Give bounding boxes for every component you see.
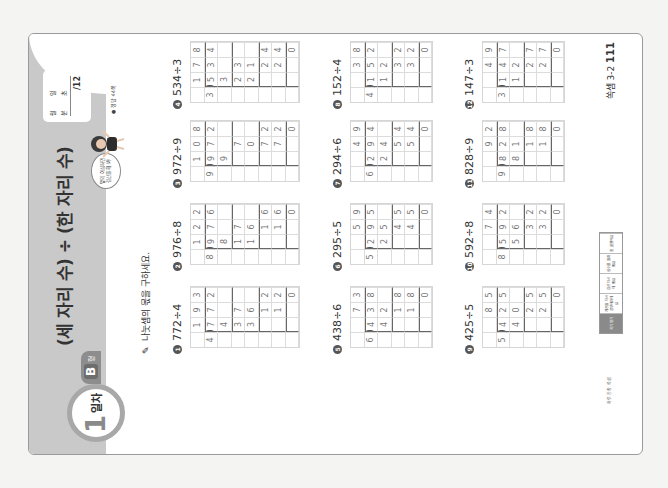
grid-cell[interactable] (245, 42, 259, 57)
grid-cell[interactable]: 1 (524, 136, 538, 151)
grid-cell[interactable]: 6 (365, 332, 379, 347)
grid-cell[interactable] (419, 249, 433, 264)
grid-cell[interactable]: 5 (351, 219, 365, 234)
grid-cell[interactable]: 1 (272, 219, 286, 234)
grid-cell[interactable] (259, 332, 273, 347)
grid-cell[interactable] (232, 249, 246, 264)
grid-cell[interactable]: 0 (419, 287, 433, 302)
grid-cell[interactable]: 0 (419, 204, 433, 219)
grid-cell[interactable]: 0 (551, 121, 565, 136)
grid-cell[interactable]: 2 (378, 151, 392, 166)
grid-cell[interactable] (286, 249, 300, 264)
grid-cell[interactable]: 8 (405, 287, 419, 302)
grid-cell[interactable]: 1 (378, 72, 392, 87)
grid-cell[interactable]: 2 (497, 302, 511, 317)
grid-cell[interactable] (537, 317, 551, 332)
grid-cell[interactable] (392, 234, 406, 249)
grid-cell[interactable]: 2 (378, 302, 392, 317)
grid-cell[interactable]: 1 (510, 72, 524, 87)
grid-cell[interactable]: 7 (351, 302, 365, 317)
grid-cell[interactable] (524, 249, 538, 264)
grid-cell[interactable]: 9 (205, 151, 219, 166)
grid-cell[interactable]: 9 (205, 166, 219, 181)
grid-cell[interactable] (524, 166, 538, 181)
grid-cell[interactable] (483, 332, 497, 347)
grid-cell[interactable] (218, 136, 232, 151)
grid-cell[interactable]: 2 (272, 57, 286, 72)
grid-cell[interactable]: 9 (483, 42, 497, 57)
grid-cell[interactable] (218, 302, 232, 317)
grid-cell[interactable]: 2 (232, 72, 246, 87)
grid-cell[interactable]: 9 (483, 136, 497, 151)
grid-cell[interactable]: 1 (272, 302, 286, 317)
grid-cell[interactable]: 5 (497, 332, 511, 347)
grid-cell[interactable]: 7 (497, 42, 511, 57)
evaluation-cell[interactable]: 계산을 다시 공부해야해요 (600, 293, 622, 313)
grid-cell[interactable] (218, 204, 232, 219)
grid-cell[interactable]: 3 (537, 219, 551, 234)
grid-cell[interactable] (405, 332, 419, 347)
grid-cell[interactable]: 3 (365, 302, 379, 317)
grid-cell[interactable] (218, 249, 232, 264)
grid-cell[interactable]: 0 (551, 42, 565, 57)
grid-cell[interactable]: 9 (218, 151, 232, 166)
grid-cell[interactable] (272, 317, 286, 332)
grid-cell[interactable] (232, 332, 246, 347)
evaluation-cell[interactable]: 실수를 줄여 봐요 (600, 253, 622, 273)
grid-cell[interactable] (419, 166, 433, 181)
grid-cell[interactable]: 4 (272, 42, 286, 57)
grid-cell[interactable] (218, 87, 232, 102)
grid-cell[interactable] (392, 317, 406, 332)
grid-cell[interactable] (378, 121, 392, 136)
grid-cell[interactable] (232, 287, 246, 302)
grid-cell[interactable]: 0 (551, 204, 565, 219)
grid-cell[interactable] (218, 332, 232, 347)
grid-cell[interactable]: 2 (191, 204, 205, 219)
grid-cell[interactable]: 2 (365, 151, 379, 166)
grid-cell[interactable] (524, 317, 538, 332)
grid-cell[interactable] (259, 166, 273, 181)
grid-cell[interactable]: 5 (365, 204, 379, 219)
grid-cell[interactable] (245, 151, 259, 166)
grid-cell[interactable] (218, 42, 232, 57)
grid-cell[interactable]: 9 (191, 302, 205, 317)
grid-cell[interactable]: 0 (510, 302, 524, 317)
grid-cell[interactable] (245, 204, 259, 219)
grid-cell[interactable] (272, 87, 286, 102)
grid-cell[interactable] (392, 332, 406, 347)
grid-cell[interactable]: 8 (524, 121, 538, 136)
grid-cell[interactable]: 1 (497, 72, 511, 87)
grid-cell[interactable]: 3 (351, 287, 365, 302)
grid-cell[interactable]: 4 (378, 136, 392, 151)
grid-cell[interactable] (259, 87, 273, 102)
grid-cell[interactable] (245, 249, 259, 264)
grid-cell[interactable]: 2 (405, 42, 419, 57)
grid-cell[interactable]: 2 (497, 136, 511, 151)
grid-cell[interactable]: 4 (365, 121, 379, 136)
grid-cell[interactable]: 2 (191, 219, 205, 234)
grid-cell[interactable]: 4 (205, 42, 219, 57)
grid-cell[interactable]: 7 (537, 42, 551, 57)
grid-cell[interactable] (524, 332, 538, 347)
grid-cell[interactable] (245, 87, 259, 102)
evaluation-cell[interactable]: 검산 다시 해 봐요 (600, 273, 622, 293)
grid-cell[interactable] (524, 234, 538, 249)
grid-cell[interactable] (405, 87, 419, 102)
grid-cell[interactable]: 9 (497, 166, 511, 181)
grid-cell[interactable]: 8 (497, 249, 511, 264)
grid-cell[interactable] (405, 166, 419, 181)
grid-cell[interactable] (551, 87, 565, 102)
grid-cell[interactable]: 4 (378, 317, 392, 332)
grid-cell[interactable] (551, 332, 565, 347)
grid-cell[interactable]: 4 (218, 317, 232, 332)
grid-cell[interactable]: 1 (365, 72, 379, 87)
grid-cell[interactable]: 3 (205, 57, 219, 72)
grid-cell[interactable]: 0 (419, 121, 433, 136)
grid-cell[interactable]: 0 (286, 121, 300, 136)
grid-cell[interactable] (378, 287, 392, 302)
grid-cell[interactable] (286, 72, 300, 87)
grid-cell[interactable]: 5 (392, 204, 406, 219)
grid-cell[interactable] (419, 151, 433, 166)
grid-cell[interactable] (392, 87, 406, 102)
grid-cell[interactable] (405, 72, 419, 87)
